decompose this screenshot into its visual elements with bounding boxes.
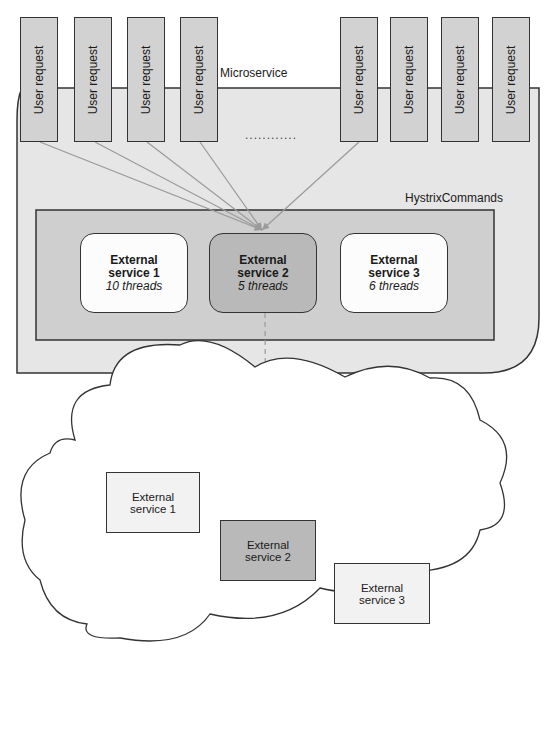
hystrix-service-1: External service 1 10 threads	[80, 233, 188, 313]
user-request-2: User request	[74, 17, 112, 142]
user-request-4: User request	[180, 17, 218, 142]
cloud-service-2: Externalservice 2	[220, 520, 316, 581]
cloud-shape	[21, 341, 507, 641]
user-request-5: User request	[340, 17, 378, 142]
cloud-service-1: Externalservice 1	[106, 472, 200, 533]
hystrix-label: HystrixCommands	[405, 191, 503, 205]
user-request-6: User request	[390, 17, 428, 142]
cloud-service-3: Externalservice 3	[334, 563, 430, 624]
ellipsis: ............	[245, 128, 297, 142]
user-request-1: User request	[20, 17, 58, 142]
user-request-7: User request	[441, 17, 479, 142]
microservice-label: Microservice	[220, 66, 287, 80]
hystrix-service-2: External service 2 5 threads	[209, 233, 317, 313]
user-request-3: User request	[127, 17, 165, 142]
hystrix-service-3: External service 3 6 threads	[340, 233, 448, 313]
user-request-8: User request	[492, 17, 530, 142]
